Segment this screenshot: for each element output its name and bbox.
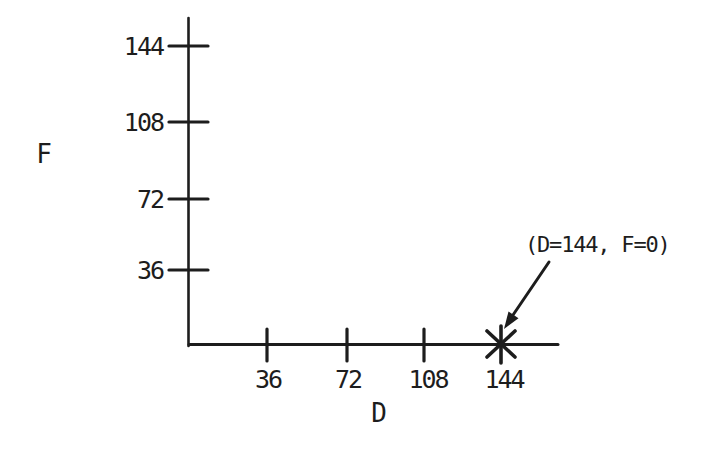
x-axis-title: D [371,398,387,428]
y-axis-title: F [36,139,52,169]
y-tick-label-144: 144 [124,32,164,61]
annotation-arrow-shaft [513,262,549,315]
annotation-arrow [504,262,549,329]
annotation-label: (D=144, F=0) [525,232,670,257]
scatter-figure: 144 108 72 36 36 72 108 144 F D (D=144, … [0,0,705,450]
x-tick-label-108: 108 [408,365,448,394]
chart-canvas: 144 108 72 36 36 72 108 144 F D (D=144, … [0,0,705,450]
x-tick-label-144: 144 [484,365,524,394]
y-tick-label-108: 108 [124,108,164,137]
y-tick-label-36: 36 [137,256,164,285]
y-tick-label-72: 72 [137,185,163,214]
annotation-arrowhead [504,312,519,330]
x-tick-label-72: 72 [335,365,361,394]
x-tick-label-36: 36 [255,365,282,394]
y-axis [169,18,208,346]
